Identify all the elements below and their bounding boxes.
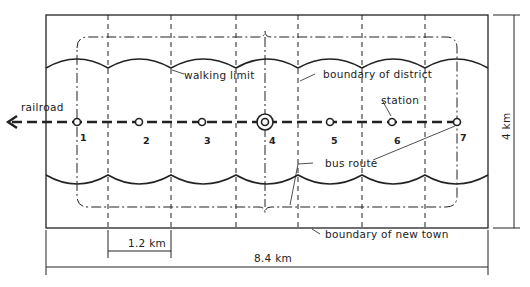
station-5 <box>327 119 334 126</box>
dimension-lines <box>46 15 520 275</box>
boundary-of-new-town-label: boundary of new town <box>325 228 449 240</box>
station-6 <box>389 119 396 126</box>
station-4 <box>262 119 269 126</box>
walking-limit-top <box>46 59 488 68</box>
station-7 <box>454 119 461 126</box>
boundary-of-district-label: boundary of district <box>323 68 432 80</box>
station-number: 4 <box>269 135 276 146</box>
walking-limit-bottom <box>46 175 488 184</box>
station-number: 7 <box>460 132 467 143</box>
station-number: 6 <box>394 135 401 146</box>
district-width-dimension: 1.2 km <box>128 237 166 249</box>
station-number: 2 <box>143 135 150 146</box>
bus-route-label: bus route <box>325 157 378 169</box>
station-number: 3 <box>204 135 211 146</box>
railroad-label: railroad <box>21 101 64 113</box>
walking-limit-label: walking limit <box>184 69 255 81</box>
station-number: 5 <box>331 135 338 146</box>
station-number: 1 <box>80 132 87 143</box>
new-town-diagram: 1 2 3 4 5 6 7 railroad walking limit bou… <box>0 0 530 287</box>
town-width-dimension: 4 km <box>500 112 512 140</box>
station-label: station <box>381 94 419 106</box>
station-2 <box>136 119 143 126</box>
station-1 <box>74 119 81 126</box>
town-length-dimension: 8.4 km <box>254 252 292 264</box>
station-3 <box>199 119 206 126</box>
